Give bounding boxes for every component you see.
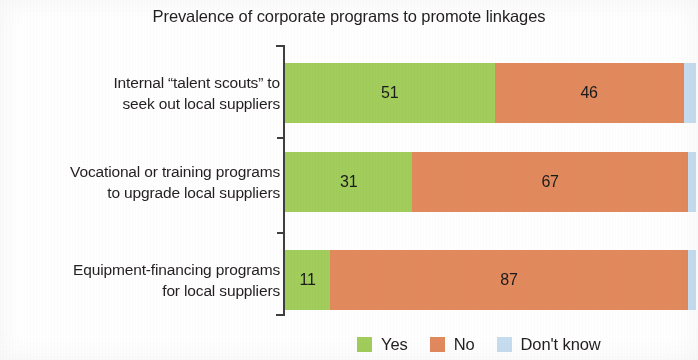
legend-item-dont-know: Don't know (497, 335, 601, 354)
table-row: 51 46 (285, 63, 696, 123)
bar-segment-no: 87 (330, 250, 688, 310)
bar-value-yes: 11 (299, 271, 315, 289)
bar-segment-dont-know (688, 152, 696, 212)
legend-swatch-no-icon (430, 337, 445, 352)
chart-legend: Yes No Don't know (357, 333, 601, 355)
bar-segment-yes: 11 (285, 250, 330, 310)
bar-value-yes: 51 (381, 84, 398, 102)
legend-label-yes: Yes (381, 335, 408, 354)
axis-cap-top (276, 45, 284, 47)
category-label-3-line2: for local suppliers (10, 280, 280, 301)
bar-segment-no: 46 (495, 63, 684, 123)
category-label-3-line1: Equipment-financing programs (10, 259, 280, 280)
legend-label-dont-know: Don't know (521, 335, 601, 354)
legend-item-yes: Yes (357, 335, 408, 354)
category-label-2-line2: to upgrade local suppliers (10, 182, 280, 203)
axis-cap-bottom (276, 314, 284, 316)
category-label-1-line2: seek out local suppliers (10, 93, 280, 114)
category-label-2-line1: Vocational or training programs (10, 161, 280, 182)
axis-tick-2 (277, 232, 284, 234)
axis-tick-1 (277, 137, 284, 139)
legend-item-no: No (430, 335, 475, 354)
category-label-2: Vocational or training programs to upgra… (10, 161, 280, 203)
category-label-1: Internal “talent scouts” to seek out loc… (10, 72, 280, 114)
bar-value-yes: 31 (340, 173, 357, 191)
bar-segment-no: 67 (412, 152, 687, 212)
category-label-3: Equipment-financing programs for local s… (10, 259, 280, 301)
bar-segment-dont-know (688, 250, 696, 310)
bar-segment-dont-know (684, 63, 696, 123)
bar-value-no: 87 (500, 271, 517, 289)
stacked-bar-chart: Prevalence of corporate programs to prom… (0, 0, 698, 360)
legend-swatch-yes-icon (357, 337, 372, 352)
plot-area: Internal “talent scouts” to seek out loc… (0, 0, 698, 318)
table-row: 11 87 (285, 250, 696, 310)
bar-value-no: 67 (541, 173, 558, 191)
legend-label-no: No (454, 335, 475, 354)
bar-segment-yes: 51 (285, 63, 495, 123)
bar-segment-yes: 31 (285, 152, 412, 212)
legend-swatch-dont-know-icon (497, 337, 512, 352)
category-label-1-line1: Internal “talent scouts” to (10, 72, 280, 93)
table-row: 31 67 (285, 152, 696, 212)
bar-value-no: 46 (580, 84, 597, 102)
